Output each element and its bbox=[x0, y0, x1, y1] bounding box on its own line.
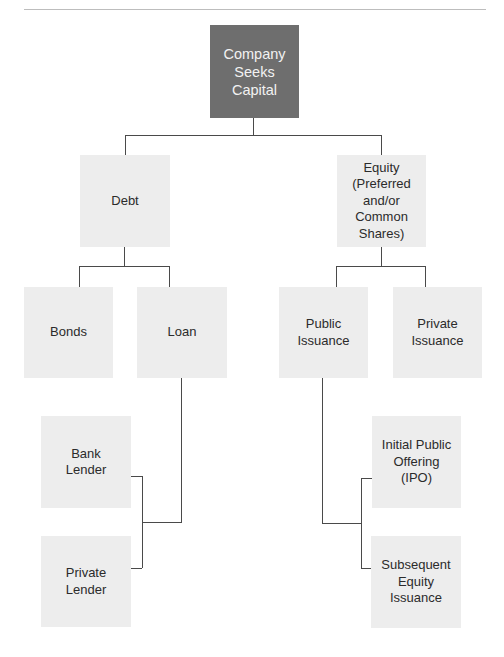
connector bbox=[336, 266, 337, 287]
node-public-issuance: Public Issuance bbox=[279, 287, 368, 378]
connector bbox=[381, 247, 382, 266]
connector bbox=[181, 378, 182, 522]
node-label: Loan bbox=[168, 324, 197, 341]
node-label: Debt bbox=[111, 193, 138, 210]
node-label: Subsequent Equity Issuance bbox=[381, 557, 450, 607]
connector bbox=[336, 266, 426, 267]
connector bbox=[142, 476, 143, 568]
node-debt: Debt bbox=[80, 155, 170, 247]
node-label: Equity (Preferred and/or Common Shares) bbox=[352, 160, 411, 243]
node-label: Company Seeks Capital bbox=[223, 45, 285, 99]
node-initial-public-offering: Initial Public Offering (IPO) bbox=[372, 416, 461, 508]
connector bbox=[124, 247, 125, 266]
node-label: Private Issuance bbox=[411, 316, 463, 349]
connector bbox=[322, 523, 362, 524]
connector bbox=[361, 478, 372, 479]
connector bbox=[79, 266, 170, 267]
connector bbox=[125, 135, 126, 155]
connector bbox=[169, 266, 170, 287]
node-bank-lender: Bank Lender bbox=[41, 416, 131, 508]
node-company-seeks-capital: Company Seeks Capital bbox=[210, 25, 299, 118]
header-rule bbox=[24, 9, 486, 10]
node-private-issuance: Private Issuance bbox=[393, 287, 482, 378]
node-bonds: Bonds bbox=[24, 287, 113, 378]
connector bbox=[361, 478, 362, 569]
connector bbox=[381, 135, 382, 155]
node-private-lender: Private Lender bbox=[41, 536, 131, 627]
node-label: Private Lender bbox=[66, 565, 106, 598]
node-label: Bonds bbox=[50, 324, 87, 341]
connector bbox=[142, 522, 182, 523]
node-label: Bank Lender bbox=[66, 446, 106, 479]
connector bbox=[322, 378, 323, 523]
connector bbox=[131, 568, 142, 569]
connector bbox=[425, 266, 426, 287]
connector bbox=[131, 476, 142, 477]
node-equity: Equity (Preferred and/or Common Shares) bbox=[337, 155, 426, 247]
node-subsequent-equity-issuance: Subsequent Equity Issuance bbox=[371, 536, 461, 628]
connector bbox=[253, 118, 254, 135]
connector bbox=[79, 266, 80, 287]
node-label: Initial Public Offering (IPO) bbox=[382, 437, 451, 487]
node-label: Public Issuance bbox=[297, 316, 349, 349]
node-loan: Loan bbox=[137, 287, 227, 378]
connector bbox=[361, 568, 371, 569]
connector bbox=[125, 135, 382, 136]
